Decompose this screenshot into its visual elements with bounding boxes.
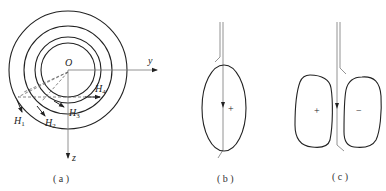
caption-c: ( c ) <box>332 171 348 183</box>
caption-a: ( a ) <box>53 173 69 185</box>
loop-ellipse <box>202 65 246 151</box>
h2-vector <box>37 106 45 116</box>
panel-c: + − ( c ) <box>295 22 381 183</box>
panel-b: + ( b ) <box>202 22 246 185</box>
conductor-bend-top <box>215 57 220 62</box>
y-axis-label: y <box>147 55 153 66</box>
caption-b: ( b ) <box>217 173 234 185</box>
sign-plus: + <box>228 103 234 114</box>
dashed-line-2 <box>24 72 68 92</box>
sign-minus: − <box>356 105 362 116</box>
origin-label: O <box>65 57 72 68</box>
figure-canvas: O y z H1 H2 H3 H4 ( a ) + ( b ) <box>0 0 386 191</box>
sign-plus: + <box>314 105 320 116</box>
h3-label: H3 <box>68 107 80 120</box>
conductor-bend-bottom <box>337 145 344 151</box>
h1-label: H1 <box>13 115 25 128</box>
h2-label: H2 <box>44 117 56 130</box>
current-arrow-icon <box>221 102 225 108</box>
current-arrow-icon <box>335 103 339 109</box>
panel-a: O y z H1 H2 H3 H4 ( a ) <box>9 11 157 185</box>
z-axis-label: z <box>71 152 76 163</box>
conductor-bend-top <box>340 68 346 74</box>
right-lobe <box>344 77 381 147</box>
dashed-line-1 <box>18 72 68 97</box>
h4-label: H4 <box>94 83 106 96</box>
